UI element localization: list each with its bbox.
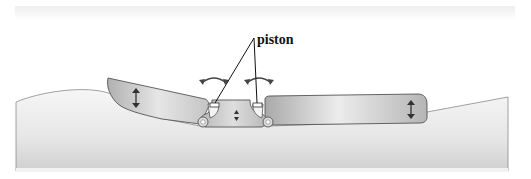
curved-double-arrow-icon bbox=[199, 78, 229, 85]
piston-label: piston bbox=[257, 32, 294, 47]
wave-device-diagram: piston bbox=[0, 0, 531, 179]
curved-double-arrow-icon bbox=[244, 78, 274, 85]
left-hinge bbox=[198, 117, 208, 127]
water-bottom bbox=[16, 168, 508, 172]
top-band bbox=[15, 6, 515, 20]
right-flap bbox=[265, 94, 427, 125]
water-surface bbox=[16, 90, 508, 171]
right-hinge bbox=[263, 117, 273, 127]
piston-leader-lines bbox=[215, 38, 257, 103]
